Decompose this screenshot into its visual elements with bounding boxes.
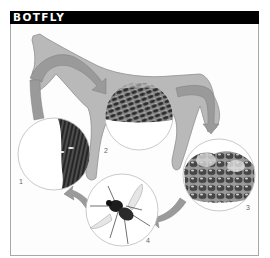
stage-3-label: 3 (246, 204, 250, 211)
stage-2-label: 2 (104, 147, 108, 154)
life-cycle-illustration (0, 0, 270, 258)
stage-3-pupae-circle (183, 139, 256, 211)
stage-1-label: 1 (19, 178, 23, 185)
stage-4-adult-fly-circle (86, 174, 158, 246)
stage-4-label: 4 (146, 237, 150, 244)
stage-1-eggs-circle (18, 114, 100, 194)
